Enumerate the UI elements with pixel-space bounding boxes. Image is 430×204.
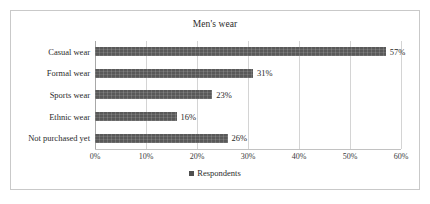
bar-value-label: 26% bbox=[232, 133, 248, 143]
x-tick-label-10pct: 10% bbox=[139, 152, 154, 161]
bar-value-label: 23% bbox=[216, 90, 232, 100]
bar-row: Not purchased yet26% bbox=[95, 127, 401, 149]
bar-rows: Casual wear57%Formal wear31%Sports wear2… bbox=[95, 41, 401, 149]
bar-value-label: 57% bbox=[390, 47, 406, 57]
category-label: Formal wear bbox=[47, 68, 90, 78]
plot-area: Casual wear57%Formal wear31%Sports wear2… bbox=[95, 41, 401, 149]
chart-title: Men's wear bbox=[11, 19, 419, 29]
legend: Respondents bbox=[11, 168, 419, 178]
bar-row: Sports wear23% bbox=[95, 84, 401, 106]
chart-container: Men's wear Casual wear57%Formal wear31%S… bbox=[10, 10, 420, 190]
bar: 16% bbox=[95, 112, 177, 121]
bar-value-label: 16% bbox=[181, 112, 197, 122]
category-label: Ethnic wear bbox=[49, 112, 90, 122]
bar-row: Casual wear57% bbox=[95, 41, 401, 63]
x-tick-label-60pct: 60% bbox=[394, 152, 409, 161]
bar-row: Formal wear31% bbox=[95, 63, 401, 85]
legend-label-respondents: Respondents bbox=[197, 168, 240, 178]
x-axis-tick-labels: 0%10%20%30%40%50%60% bbox=[95, 152, 401, 164]
bar: 57% bbox=[95, 47, 386, 56]
x-tick-label-30pct: 30% bbox=[241, 152, 256, 161]
category-label: Not purchased yet bbox=[28, 133, 90, 143]
bar: 31% bbox=[95, 69, 253, 78]
bar-row: Ethnic wear16% bbox=[95, 106, 401, 128]
x-tick-label-50pct: 50% bbox=[343, 152, 358, 161]
legend-swatch-respondents bbox=[189, 171, 194, 176]
bar: 23% bbox=[95, 90, 212, 99]
category-label: Sports wear bbox=[50, 90, 90, 100]
x-tick-label-20pct: 20% bbox=[190, 152, 205, 161]
bar-value-label: 31% bbox=[257, 68, 273, 78]
x-axis-line bbox=[95, 149, 401, 150]
x-tick-label-40pct: 40% bbox=[292, 152, 307, 161]
bar: 26% bbox=[95, 134, 228, 143]
gridline-60 bbox=[401, 41, 402, 149]
x-tick-label-0pct: 0% bbox=[90, 152, 101, 161]
category-label: Casual wear bbox=[48, 47, 90, 57]
